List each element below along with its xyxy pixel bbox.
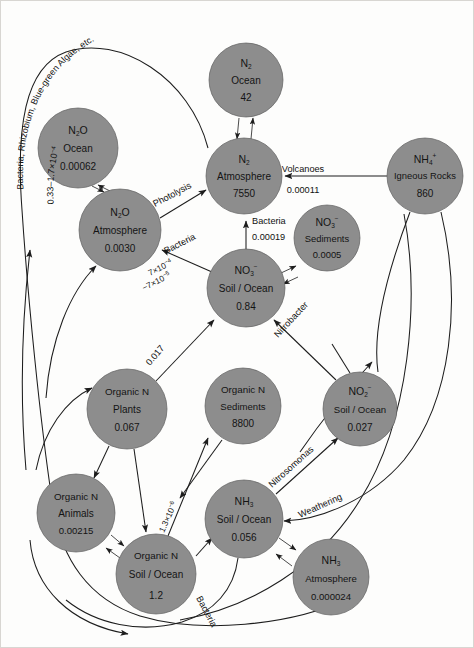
node-value-organic-n-plants: 0.067 <box>114 422 139 433</box>
label-weathering: Weathering <box>297 492 344 520</box>
label-bacteria-denitrification-n2: Bacteria <box>252 216 287 226</box>
node-organic-n-soil-ocean[interactable]: Organic N Soil / Ocean 1.2 <box>116 534 196 614</box>
label-plant-uptake-value: 0.017 <box>144 343 166 367</box>
node-group: N2 Ocean 42 N2 Atmosphere 7550 N2O Ocean… <box>37 43 463 615</box>
node-value-no3-soil-ocean: 0.84 <box>236 301 256 312</box>
node-pool-nh3-atmosphere: Atmosphere <box>305 573 357 584</box>
flow-left-inner-up <box>46 266 96 398</box>
flow-no3sed-to-no3soil <box>283 277 298 284</box>
node-value-n2-atmosphere: 7550 <box>233 188 256 199</box>
node-no3-sediments[interactable]: NO3− Sediments 0.0005 <box>294 205 360 271</box>
node-species-organic-n-plants: Organic N <box>105 386 149 397</box>
node-pool-n2o-ocean: Ocean <box>63 143 92 154</box>
flow-plants-to-soil <box>134 449 146 532</box>
node-value-organic-n-soil-ocean: 1.2 <box>149 590 163 601</box>
node-value-n2-ocean: 42 <box>240 92 252 103</box>
flow-left-outer-up <box>23 250 30 470</box>
node-n2-ocean[interactable]: N2 Ocean 42 <box>209 43 283 117</box>
node-no3-soil-ocean[interactable]: NO3− Soil / Ocean 0.84 <box>207 249 285 327</box>
node-pool-n2o-atmosphere: Atmosphere <box>93 225 147 236</box>
flow-nh3soil-to-nh3atm <box>279 538 296 550</box>
node-value-n2o-ocean: 0.00062 <box>60 161 97 172</box>
node-n2o-atmosphere[interactable]: N2O Atmosphere 0.0030 <box>79 189 161 271</box>
flow-sediments-cross <box>180 440 222 498</box>
label-bacteria-denitrification-n2-value: 0.00019 <box>252 232 285 242</box>
node-pool-organic-n-sediments: Sediments <box>220 401 266 412</box>
node-pool-n2-atmosphere: Atmosphere <box>217 171 271 182</box>
node-value-organic-n-animals: 0.00215 <box>59 525 94 536</box>
flow-soil-to-animals <box>106 548 120 558</box>
node-pool-no2-soil-ocean: Soil / Ocean <box>334 404 386 415</box>
node-species-organic-n-soil-ocean: Organic N <box>134 550 178 561</box>
node-value-no3-sediments: 0.0005 <box>313 249 342 260</box>
flow-igneous-branch <box>377 212 410 372</box>
flow-animals-to-soil <box>111 535 124 546</box>
flow-n2ocean-to-n2atm <box>237 118 239 139</box>
node-n2-atmosphere[interactable]: N2 Atmosphere 7550 <box>206 138 282 214</box>
label-volcanoes-value: 0.00011 <box>287 185 320 195</box>
nitrogen-cycle-diagram: N2 Ocean 42 N2 Atmosphere 7550 N2O Ocean… <box>0 0 474 648</box>
node-value-n2o-atmosphere: 0.0030 <box>105 243 136 254</box>
flow-ammonification <box>196 538 212 556</box>
flow-n2atm-to-n2ocean <box>251 118 253 139</box>
label-photolysis: Photolysis <box>151 180 193 209</box>
node-nh3-soil-ocean[interactable]: NH3 Soil / Ocean 0.056 <box>205 480 283 558</box>
cycle-svg: N2 Ocean 42 N2 Atmosphere 7550 N2O Ocean… <box>0 0 474 648</box>
label-nitrosomonas: Nitrosomonas <box>267 444 316 490</box>
node-pool-organic-n-animals: Animals <box>58 508 94 519</box>
node-value-nh3-soil-ocean: 0.056 <box>231 532 256 543</box>
node-pool-no3-sediments: Sediments <box>305 233 350 244</box>
node-nh4-igneous-rocks[interactable]: NH4+ Igneous Rocks 860 <box>387 138 463 214</box>
node-pool-no3-soil-ocean: Soil / Ocean <box>219 283 273 294</box>
node-organic-n-sediments[interactable]: Organic N Sediments 8800 <box>205 368 281 444</box>
node-nh3-atmosphere[interactable]: NH3 Atmosphere 0.000024 <box>293 539 369 615</box>
node-value-organic-n-sediments: 8800 <box>232 418 255 429</box>
node-pool-nh4-igneous-rocks: Igneous Rocks <box>394 170 456 181</box>
node-pool-organic-n-soil-ocean: Soil / Ocean <box>129 569 183 580</box>
node-no2-soil-ocean[interactable]: NO2− Soil / Ocean 0.027 <box>323 372 397 446</box>
node-species-organic-n-sediments: Organic N <box>221 384 265 395</box>
node-species-organic-n-animals: Organic N <box>54 491 98 502</box>
node-organic-n-animals[interactable]: Organic N Animals 0.00215 <box>37 474 115 552</box>
flow-bottom-loop <box>30 540 128 634</box>
node-value-nh4-igneous-rocks: 860 <box>417 188 434 199</box>
flow-nh3atm-to-nh3soil <box>276 554 292 566</box>
label-volcanoes: Volcanoes <box>282 164 325 174</box>
node-pool-organic-n-plants: Plants <box>113 404 141 415</box>
node-organic-n-plants[interactable]: Organic N Plants 0.067 <box>87 369 167 449</box>
node-pool-n2-ocean: Ocean <box>231 75 260 86</box>
node-pool-nh3-soil-ocean: Soil / Ocean <box>217 514 271 525</box>
node-value-nh3-atmosphere: 0.000024 <box>311 591 352 602</box>
flow-plants-to-animals <box>94 446 109 478</box>
label-bacteria-denitrification-n2o: Bacteria <box>162 231 197 256</box>
node-value-no2-soil-ocean: 0.027 <box>347 422 372 433</box>
flow-no2-connector <box>332 344 350 373</box>
flow-to-plants-arc <box>36 388 92 470</box>
flow-no3soil-to-no3sed <box>281 266 296 273</box>
